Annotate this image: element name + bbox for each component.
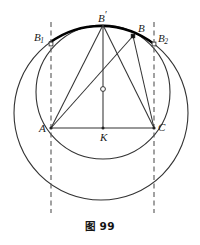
outer-circle	[14, 26, 188, 200]
point-marker-B1	[49, 42, 53, 46]
point-marker-A	[49, 126, 52, 129]
label-a: A	[39, 123, 46, 134]
point-marker-B2	[152, 42, 156, 46]
geometry-canvas	[0, 0, 200, 245]
label-b1: B1	[34, 32, 44, 45]
figure-caption: 图 99	[0, 218, 200, 233]
segment-group	[51, 25, 154, 128]
label-b: B	[138, 23, 145, 34]
point-marker-B	[131, 34, 135, 38]
side-A-Bprime	[51, 25, 103, 128]
geometry-figure: B′ B B1 B2 A C K 图 99	[0, 0, 200, 245]
point-marker-K	[102, 127, 105, 130]
label-b2: B2	[158, 33, 168, 46]
point-marker-C	[152, 126, 155, 129]
center-point-marker	[101, 87, 106, 92]
side-C-B	[133, 36, 154, 128]
label-b-prime: B′	[98, 10, 107, 24]
side-A-B	[51, 36, 133, 128]
label-c: C	[158, 122, 165, 133]
label-k: K	[100, 132, 107, 143]
